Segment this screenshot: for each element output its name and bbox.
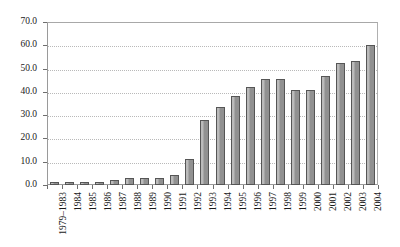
x-tick-mark — [318, 185, 319, 189]
x-tick-mark — [122, 185, 123, 189]
bar — [185, 159, 194, 185]
x-tick-mark — [333, 185, 334, 189]
bar — [261, 79, 270, 185]
bar — [366, 45, 375, 185]
x-tick-label: 2001 — [329, 192, 339, 211]
bar — [351, 61, 360, 185]
bar — [231, 96, 240, 185]
x-tick-label: 2003 — [359, 192, 369, 211]
x-tick-mark — [363, 185, 364, 189]
x-tick-label: 1996 — [254, 192, 264, 211]
x-tick-label: 1988 — [134, 192, 144, 211]
x-tick-mark — [348, 185, 349, 189]
x-tick-mark — [288, 185, 289, 189]
x-tick-mark — [197, 185, 198, 189]
x-tick-label: 2002 — [344, 192, 354, 211]
x-tick-label: 1992 — [194, 192, 204, 211]
bar — [246, 87, 255, 185]
y-tick-label: 10.0 — [20, 157, 37, 167]
x-tick-label: 2000 — [314, 192, 324, 211]
x-tick-label: 1989 — [149, 192, 159, 211]
x-tick-mark — [62, 185, 63, 189]
x-tick-mark — [92, 185, 93, 189]
bar — [216, 107, 225, 185]
x-tick-mark — [258, 185, 259, 189]
x-tick-label: 1987 — [119, 192, 129, 211]
bar — [336, 63, 345, 185]
x-tick-mark — [228, 185, 229, 189]
bar — [200, 120, 209, 185]
x-tick-label: 1990 — [164, 192, 174, 211]
x-tick-mark — [273, 185, 274, 189]
bar — [155, 178, 164, 185]
x-tick-mark — [137, 185, 138, 189]
x-tick-mark — [243, 185, 244, 189]
y-tick-label: 50.0 — [20, 64, 37, 74]
x-tick-mark — [378, 185, 379, 189]
x-tick-label: 1994 — [224, 192, 234, 211]
bar — [321, 76, 330, 185]
y-tick-label: 70.0 — [20, 17, 37, 27]
x-tick-label: 1984 — [74, 192, 84, 211]
x-tick-mark — [303, 185, 304, 189]
x-tick-mark — [77, 185, 78, 189]
y-tick-label: 40.0 — [20, 87, 37, 97]
x-tick-label: 1997 — [269, 192, 279, 211]
x-axis: 1979–19831984198519861987198819891990199… — [47, 185, 378, 247]
x-tick-mark — [47, 185, 48, 189]
x-tick-label: 1985 — [89, 192, 99, 211]
bar — [276, 79, 285, 185]
x-tick-label: 1979–1983 — [59, 192, 69, 235]
x-tick-label: 1986 — [104, 192, 114, 211]
bar — [170, 175, 179, 185]
y-tick-label: 60.0 — [20, 41, 37, 51]
bar — [306, 90, 315, 185]
x-tick-label: 1991 — [179, 192, 189, 211]
x-tick-mark — [167, 185, 168, 189]
y-tick-label: 0.0 — [25, 180, 37, 190]
bar — [125, 178, 134, 185]
x-tick-label: 1993 — [209, 192, 219, 211]
chart-screenshot: 0.010.020.030.040.050.060.070.0 1979–198… — [0, 0, 400, 247]
x-tick-mark — [152, 185, 153, 189]
x-tick-label: 1995 — [239, 192, 249, 211]
x-tick-label: 1998 — [284, 192, 294, 211]
x-tick-label: 2004 — [374, 192, 384, 211]
y-axis: 0.010.020.030.040.050.060.070.0 — [0, 0, 44, 247]
x-tick-label: 1999 — [299, 192, 309, 211]
bar — [291, 90, 300, 185]
x-tick-mark — [213, 185, 214, 189]
bar — [140, 178, 149, 185]
y-tick-label: 20.0 — [20, 134, 37, 144]
y-tick-label: 30.0 — [20, 110, 37, 120]
x-tick-mark — [107, 185, 108, 189]
x-tick-mark — [182, 185, 183, 189]
bar-series — [47, 22, 378, 185]
